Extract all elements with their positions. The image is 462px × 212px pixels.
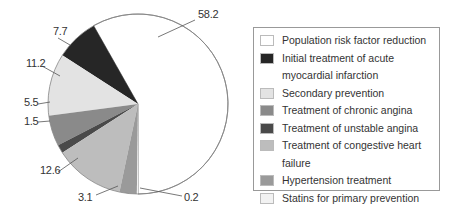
legend-swatch [260, 123, 274, 134]
legend-swatch [260, 53, 274, 64]
leader-line [38, 121, 50, 122]
data-label-unstable-angina: 1.5 [24, 115, 38, 127]
legend-swatch [260, 140, 274, 151]
data-label-chronic-angina: 5.5 [24, 96, 38, 108]
data-label-statins: 0.2 [184, 191, 198, 203]
legend-item: Treatment of unstable angina [260, 120, 439, 138]
legend-item: Population risk factor reduction [260, 32, 439, 50]
legend-swatch [260, 88, 274, 99]
leader-line [58, 38, 70, 45]
legend-swatch [260, 105, 274, 116]
data-label-heart-failure: 12.6 [40, 164, 60, 176]
data-label-hypertension: 3.1 [78, 191, 92, 203]
legend-item: Statins for primary prevention [260, 190, 439, 208]
data-label-population: 58.2 [198, 8, 218, 20]
legend-item: Treatment of chronic angina [260, 102, 439, 120]
legend-item: Hypertension treatment [260, 172, 439, 190]
data-label-secondary-prevention: 11.2 [26, 57, 45, 69]
legend-item: Secondary prevention [260, 85, 439, 103]
chart-legend: Population risk factor reduction Initial… [253, 27, 440, 191]
legend-swatch [260, 193, 274, 204]
data-label-acute-mi: 7.7 [53, 25, 67, 37]
legend-item: Initial treatment of acute myocardial in… [260, 50, 439, 85]
legend-swatch [260, 175, 274, 186]
legend-swatch [260, 35, 274, 46]
legend-item: Treatment of congestive heart failure [260, 137, 439, 172]
